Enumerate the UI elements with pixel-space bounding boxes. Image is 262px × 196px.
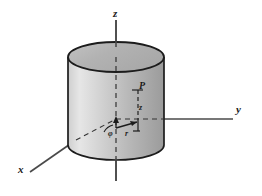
radial-coordinate-label: r (125, 130, 128, 138)
cylindrical-coordinate-figure: z y x P z r φ (0, 0, 262, 196)
azimuth-coordinate-label: φ (108, 130, 113, 138)
z-axis-label: z (113, 8, 117, 19)
height-coordinate-label: z (139, 104, 142, 112)
figure-canvas (0, 0, 262, 196)
point-p-label: P (139, 81, 145, 91)
x-axis-label: x (18, 164, 24, 175)
y-axis-label: y (236, 104, 241, 115)
